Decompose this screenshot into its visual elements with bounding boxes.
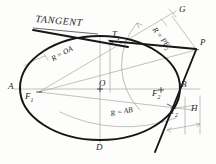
point-a-label: A <box>8 82 14 91</box>
tick-g-1 <box>169 9 176 17</box>
dim-arrow-head-right <box>196 123 200 127</box>
point-h-label: H <box>191 104 198 113</box>
tick-g-2 <box>161 19 167 26</box>
point-d-label: D <box>96 143 103 152</box>
tangent-lines <box>33 30 196 152</box>
point-o-label: O <box>99 79 106 88</box>
drawing-canvas: TANGENT R = OA R = AB R = PF2 A B D G H … <box>0 0 216 164</box>
tangent-line-t1-p <box>110 41 196 49</box>
dim-arrow-head-left <box>167 128 171 132</box>
focus-2-subscript: 2 <box>158 94 161 100</box>
point-p-label: P <box>200 38 206 47</box>
tangent-point-1-label: T1 <box>112 30 120 39</box>
tangent-line-p-t2 <box>155 50 196 152</box>
arc-arrow-pf2 <box>137 23 142 28</box>
tangent-point-1-subscript: 1 <box>117 35 120 41</box>
tangent-point-2-label: T2 <box>170 107 178 116</box>
tick-r-oa <box>44 54 48 60</box>
dim-arrow-h <box>167 124 200 130</box>
line-p-to-g <box>172 16 196 49</box>
point-g-label: G <box>179 5 186 14</box>
focus-1-label: F1 <box>25 92 33 101</box>
focus-1-subscript: 1 <box>31 97 34 103</box>
point-b-label: B <box>181 80 187 89</box>
tangent-point-2-subscript: 2 <box>175 112 178 118</box>
arc-r-pf2 <box>121 23 140 110</box>
focus-2-label: F2 <box>152 89 160 98</box>
